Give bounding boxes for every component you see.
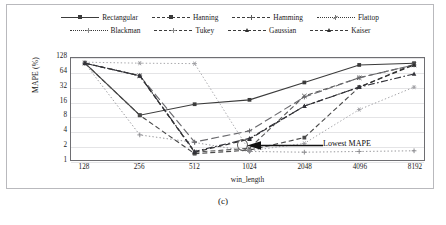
x-axis-ticks: 1282565121024204840968192 [70, 163, 425, 175]
y-tick-128: 128 [43, 53, 67, 60]
y-tick-32: 32 [43, 83, 67, 90]
data-point-marker [248, 98, 252, 102]
data-point-marker [412, 72, 417, 76]
data-point-marker [412, 148, 417, 153]
y-tick-8: 8 [43, 112, 67, 119]
data-point-marker [357, 63, 361, 67]
y-tick-4: 4 [43, 127, 67, 134]
y-tick-1: 1 [43, 157, 67, 164]
data-point-marker [302, 95, 307, 100]
data-point-marker [137, 61, 142, 65]
data-point-marker [357, 149, 362, 154]
x-tick-4096: 4096 [353, 163, 367, 171]
y-axis-title: MAPE (%) [31, 57, 40, 93]
lowest-mape-arrow-icon [247, 140, 325, 151]
data-point-marker [302, 136, 306, 140]
figure-caption: (c) [0, 196, 446, 206]
x-tick-128: 128 [79, 163, 90, 171]
y-axis-ticks: 1286432168421 [43, 55, 67, 165]
plot-area-wrapper: MAPE (%) 1286432168421 12825651210242048… [7, 5, 433, 188]
data-point-marker [193, 102, 197, 106]
series-line [85, 63, 414, 115]
lowest-mape-label: Lowest MAPE [323, 139, 371, 148]
data-point-marker [302, 81, 306, 85]
x-axis-title: win_length [70, 175, 425, 184]
data-point-marker [192, 62, 197, 66]
data-point-marker [137, 133, 142, 138]
x-tick-8192: 8192 [408, 163, 422, 171]
data-point-marker [357, 108, 362, 112]
series-tukey [83, 61, 417, 145]
data-point-marker [138, 113, 142, 117]
x-tick-256: 256 [134, 163, 145, 171]
figure-panel: Rectangular Hanning Hamming Flattop [6, 4, 434, 189]
data-point-marker [412, 85, 417, 89]
y-tick-64: 64 [43, 68, 67, 75]
y-tick-2: 2 [43, 142, 67, 149]
y-tick-16: 16 [43, 98, 67, 105]
x-tick-2048: 2048 [297, 163, 311, 171]
x-tick-512: 512 [189, 163, 200, 171]
x-tick-1024: 1024 [242, 163, 256, 171]
